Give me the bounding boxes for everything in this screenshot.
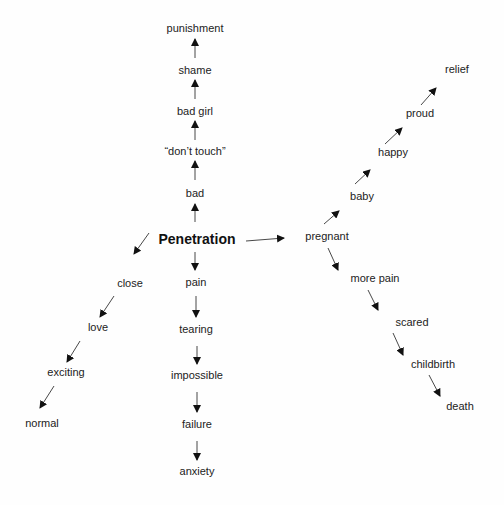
node-relief: relief <box>445 63 469 76</box>
node-anxiety: anxiety <box>180 465 215 478</box>
node-shame: shame <box>178 64 211 77</box>
arrow-icon <box>324 211 339 224</box>
node-impossible: impossible <box>171 369 223 382</box>
node-exciting: exciting <box>47 366 84 379</box>
arrow-icon <box>393 333 403 355</box>
node-normal: normal <box>25 417 59 430</box>
node-scared: scared <box>395 316 428 329</box>
arrow-icon <box>421 88 436 105</box>
node-love: love <box>88 321 108 334</box>
arrow-icon <box>328 248 338 270</box>
node-bad: bad <box>186 187 204 200</box>
arrow-icon <box>429 375 440 396</box>
node-bad-girl: bad girl <box>177 105 213 118</box>
arrow-icon <box>67 341 80 362</box>
node-penetration: Penetration <box>158 233 235 246</box>
association-diagram: Penetrationbad“don’t touch”bad girlshame… <box>0 0 504 505</box>
node-close: close <box>117 277 143 290</box>
node-pain: pain <box>186 276 207 289</box>
node-failure: failure <box>182 418 212 431</box>
node-proud: proud <box>406 107 434 120</box>
node-more-pain: more pain <box>351 272 400 285</box>
arrow-icon <box>100 296 114 317</box>
arrow-icon <box>385 128 402 144</box>
node-tearing: tearing <box>179 323 213 336</box>
node-death: death <box>446 400 474 413</box>
arrow-icon <box>355 170 370 184</box>
node-pregnant: pregnant <box>305 230 348 243</box>
arrow-icon <box>368 290 378 310</box>
arrow-icon <box>246 238 284 241</box>
arrow-layer <box>0 0 504 505</box>
node-dont-touch: “don’t touch” <box>164 145 225 158</box>
arrow-icon <box>134 233 149 254</box>
node-childbirth: childbirth <box>411 358 455 371</box>
arrow-icon <box>40 386 54 408</box>
node-punishment: punishment <box>167 22 224 35</box>
node-happy: happy <box>378 146 408 159</box>
node-baby: baby <box>350 190 374 203</box>
